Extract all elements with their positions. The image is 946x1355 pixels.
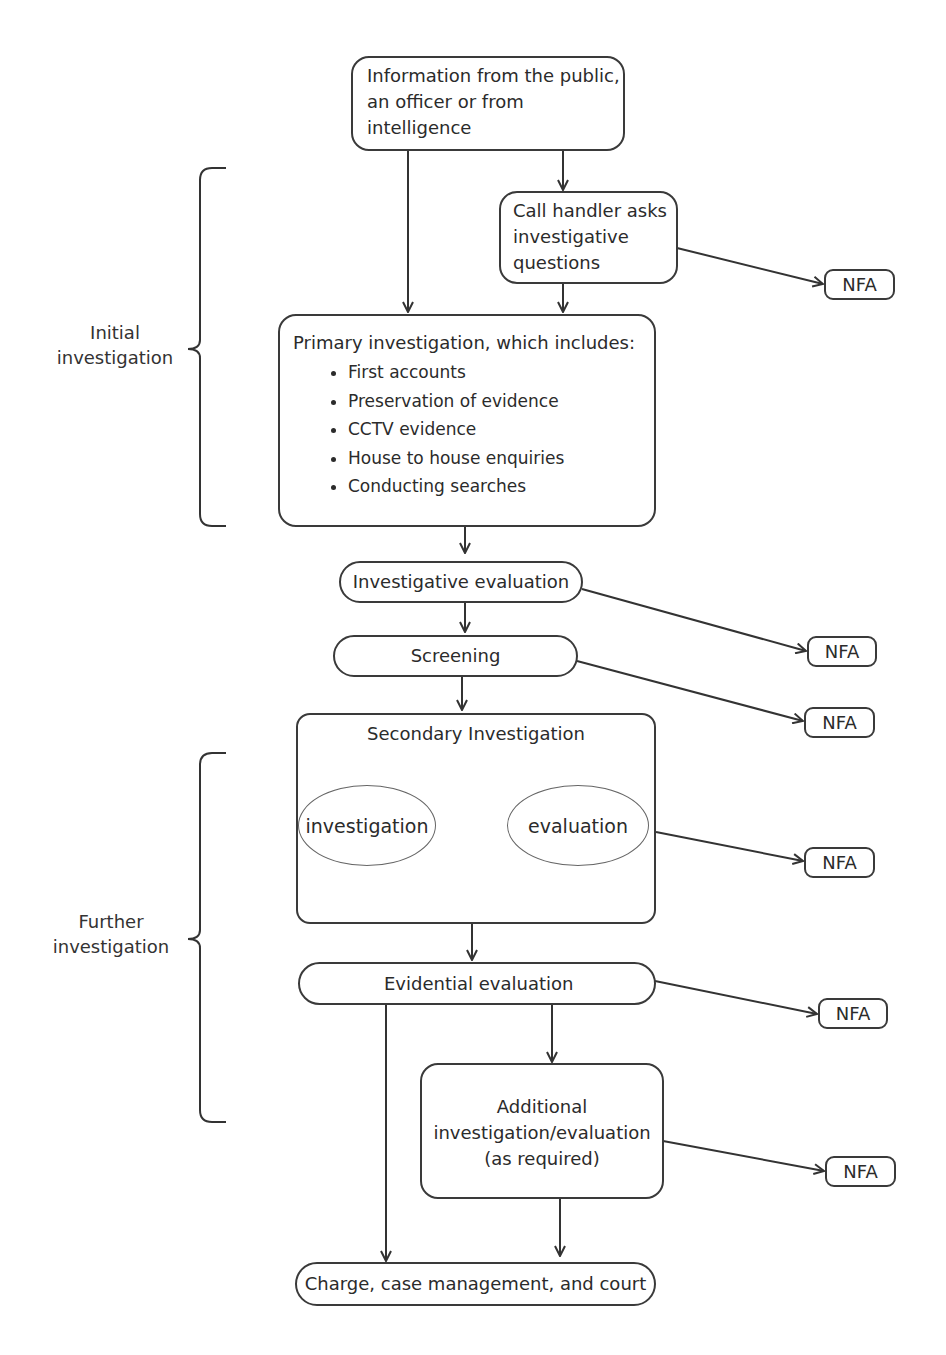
primary-item-first-accounts: First accounts <box>348 358 654 387</box>
initial-line-2: investigation <box>50 345 180 370</box>
additional-line-1: Additional <box>422 1094 662 1120</box>
primary-investigation-list: First accounts Preservation of evidence … <box>293 358 654 501</box>
investigation-ellipse: investigation <box>298 785 436 866</box>
nfa-box-investigative-evaluation: NFA <box>807 636 877 667</box>
primary-item-house-to-house: House to house enquiries <box>348 444 654 473</box>
nfa-box-additional: NFA <box>825 1156 896 1187</box>
call-handler-line-3: questions <box>513 250 676 276</box>
initial-investigation-label: Initial investigation <box>50 320 180 370</box>
further-line-1: Further <box>46 909 176 934</box>
nfa-box-evidential: NFA <box>818 998 888 1029</box>
additional-line-2: investigation/evaluation <box>422 1120 662 1146</box>
arrow-additional-to-nfa <box>663 1141 824 1171</box>
nfa-label: NFA <box>825 641 859 662</box>
evidential-evaluation-label: Evidential evaluation <box>384 971 573 997</box>
further-investigation-label: Further investigation <box>46 909 176 959</box>
arrow-ie-to-nfa <box>582 589 806 651</box>
nfa-label: NFA <box>822 852 856 873</box>
screening-node: Screening <box>333 635 578 677</box>
charge-court-label: Charge, case management, and court <box>305 1271 647 1297</box>
primary-item-preservation: Preservation of evidence <box>348 387 654 416</box>
further-line-2: investigation <box>46 934 176 959</box>
investigation-ellipse-label: investigation <box>306 815 429 837</box>
bracket-further <box>188 753 226 1122</box>
nfa-box-screening: NFA <box>804 707 875 738</box>
evaluation-ellipse-label: evaluation <box>528 815 628 837</box>
secondary-investigation-title: Secondary Investigation <box>298 721 654 747</box>
investigation-flowchart: Information from the public, an officer … <box>0 0 946 1355</box>
arrow-screening-to-nfa <box>577 661 803 721</box>
additional-investigation-node: Additional investigation/evaluation (as … <box>420 1063 664 1199</box>
information-line-2: an officer or from <box>367 89 623 115</box>
nfa-label: NFA <box>843 1161 877 1182</box>
nfa-label: NFA <box>842 274 876 295</box>
screening-label: Screening <box>411 643 501 669</box>
call-handler-line-2: investigative <box>513 224 676 250</box>
primary-investigation-title: Primary investigation, which includes: <box>293 330 654 356</box>
call-handler-node: Call handler asks investigative question… <box>499 191 678 284</box>
investigative-evaluation-label: Investigative evaluation <box>353 569 570 595</box>
call-handler-line-1: Call handler asks <box>513 198 676 224</box>
evidential-evaluation-node: Evidential evaluation <box>298 962 656 1005</box>
initial-line-1: Initial <box>50 320 180 345</box>
arrow-evidential-to-nfa <box>655 981 817 1014</box>
information-line-3: intelligence <box>367 115 623 141</box>
arrow-callhandler-to-nfa <box>677 248 823 284</box>
bracket-initial <box>188 168 226 526</box>
evaluation-ellipse: evaluation <box>507 785 649 866</box>
nfa-box-secondary: NFA <box>804 847 875 878</box>
nfa-label: NFA <box>836 1003 870 1024</box>
charge-court-node: Charge, case management, and court <box>295 1262 656 1306</box>
primary-item-searches: Conducting searches <box>348 472 654 501</box>
nfa-box-call-handler: NFA <box>824 269 895 300</box>
additional-line-3: (as required) <box>422 1146 662 1172</box>
primary-item-cctv: CCTV evidence <box>348 415 654 444</box>
primary-investigation-node: Primary investigation, which includes: F… <box>278 314 656 527</box>
investigative-evaluation-node: Investigative evaluation <box>339 561 583 603</box>
information-line-1: Information from the public, <box>367 63 623 89</box>
arrow-secondary-to-nfa <box>656 832 803 861</box>
nfa-label: NFA <box>822 712 856 733</box>
information-source-node: Information from the public, an officer … <box>351 56 625 151</box>
